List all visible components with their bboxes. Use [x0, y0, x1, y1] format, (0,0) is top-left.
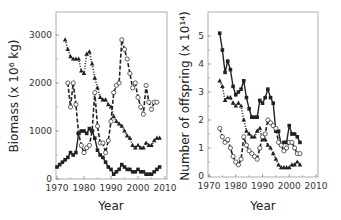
y-tick-label: 0 — [198, 171, 204, 181]
circle-marker — [274, 126, 278, 130]
circle-marker — [258, 146, 262, 150]
square-marker — [226, 59, 230, 63]
circle-marker — [87, 143, 91, 147]
square-marker — [223, 71, 227, 75]
square-marker — [231, 85, 235, 89]
y-tick-label: 1000 — [29, 126, 52, 136]
circle-marker — [136, 95, 140, 99]
y-tick-label: 2 — [198, 115, 204, 125]
x-axis-ticks: 19701980199020002010 — [46, 176, 177, 193]
biomass-chart: 0100020003000 19701980199020002010 Year … — [7, 12, 177, 213]
circle-marker — [131, 86, 135, 90]
circle-marker — [117, 81, 121, 85]
circle-marker — [236, 163, 240, 167]
circle-marker — [120, 38, 124, 42]
x-tick-label: 1990 — [251, 181, 274, 191]
circle-marker — [263, 132, 267, 136]
circle-marker — [155, 100, 159, 104]
triangle-marker — [258, 126, 263, 130]
y-axis-title: Number of offspring (x 10¹⁴) — [178, 11, 192, 180]
circle-marker — [228, 146, 232, 150]
square-marker — [255, 115, 259, 119]
square-marker — [74, 151, 78, 155]
y-tick-label: 3000 — [29, 30, 52, 40]
square-marker — [109, 168, 113, 172]
x-tick-label: 2000 — [127, 183, 150, 193]
y-tick-label: 4 — [198, 59, 204, 69]
circle-marker — [71, 81, 75, 85]
triangle-marker — [130, 143, 135, 147]
circle-marker — [133, 81, 137, 85]
circle-marker — [109, 119, 113, 123]
square-marker — [242, 79, 246, 83]
circle-marker — [95, 124, 99, 128]
circle-marker — [141, 112, 145, 116]
circle-marker — [239, 157, 243, 161]
triangle-marker — [244, 129, 249, 133]
circle-marker — [284, 146, 288, 150]
circle-marker — [79, 143, 83, 147]
triangle-marker — [63, 37, 68, 41]
circle-marker — [293, 146, 297, 150]
x-tick-label: 1970 — [198, 181, 221, 191]
circle-marker — [290, 140, 294, 144]
triangle-marker — [271, 151, 276, 155]
triangle-marker — [93, 76, 98, 80]
square-marker — [266, 87, 270, 91]
square-marker — [101, 156, 105, 160]
square-marker — [271, 101, 275, 105]
circle-marker — [149, 107, 153, 111]
circle-marker — [125, 57, 129, 61]
circle-marker — [220, 135, 224, 139]
square-marker — [263, 96, 267, 100]
circle-marker — [112, 91, 116, 95]
circle-marker — [242, 135, 246, 139]
series-line-circles — [68, 40, 157, 153]
triangle-marker — [136, 143, 141, 147]
square-marker — [269, 96, 273, 100]
square-marker — [93, 136, 97, 140]
x-tick-label: 2010 — [305, 181, 328, 191]
x-tick-label: 1980 — [73, 183, 96, 193]
circle-marker — [74, 103, 78, 107]
square-marker — [261, 101, 265, 105]
x-tick-label: 1980 — [224, 181, 247, 191]
circle-marker — [128, 71, 132, 75]
circle-marker — [101, 141, 105, 145]
square-marker — [117, 168, 121, 172]
square-marker — [221, 48, 225, 52]
circle-marker — [139, 105, 143, 109]
circle-marker — [122, 47, 126, 51]
offspring-chart: 012345 19701980199020002010 Year Number … — [178, 11, 328, 213]
square-marker — [104, 160, 108, 164]
x-tick-label: 2010 — [154, 183, 177, 193]
circle-marker — [255, 157, 259, 161]
triangle-marker — [236, 101, 241, 105]
square-marker — [295, 135, 299, 139]
x-tick-label: 2000 — [278, 181, 301, 191]
triangle-marker — [106, 102, 111, 106]
circle-marker — [104, 151, 108, 155]
triangle-marker — [98, 95, 103, 99]
x-tick-label: 1990 — [100, 183, 123, 193]
circle-marker — [144, 83, 148, 87]
triangle-marker — [79, 68, 84, 72]
triangle-marker — [68, 54, 73, 58]
triangle-marker — [266, 143, 271, 147]
square-marker — [298, 141, 302, 145]
circle-marker — [147, 100, 151, 104]
y-axis-ticks: 0100020003000 — [29, 30, 59, 184]
circle-marker — [298, 152, 302, 156]
circle-marker — [93, 91, 97, 95]
x-axis-title: Year — [97, 199, 123, 213]
x-axis-title: Year — [249, 199, 275, 213]
triangle-marker — [66, 47, 71, 51]
square-marker — [239, 87, 243, 91]
triangle-marker — [220, 84, 225, 88]
triangle-marker — [295, 159, 300, 163]
circle-marker — [82, 151, 86, 155]
triangle-marker — [87, 49, 92, 53]
y-axis-ticks: 012345 — [198, 31, 211, 181]
y-tick-label: 3 — [198, 87, 204, 97]
triangle-marker — [90, 61, 95, 65]
